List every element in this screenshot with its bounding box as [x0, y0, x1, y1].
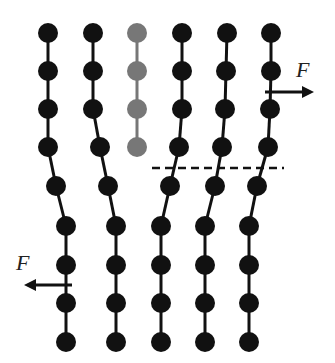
atom [56, 293, 76, 313]
atom [260, 99, 280, 119]
atom [56, 255, 76, 275]
force-arrow-right-head-icon [302, 86, 314, 98]
atom [38, 23, 58, 43]
atom [46, 176, 66, 196]
atom [215, 99, 235, 119]
atom [217, 23, 237, 43]
atom [38, 137, 58, 157]
atom [195, 216, 215, 236]
atom [90, 137, 110, 157]
atom [172, 23, 192, 43]
force-label-top: F [295, 57, 310, 82]
atom [239, 216, 259, 236]
atom [169, 137, 189, 157]
force-arrow-left-head-icon [24, 279, 36, 291]
atoms [38, 23, 281, 352]
atom [212, 137, 232, 157]
atom [106, 293, 126, 313]
atom [195, 332, 215, 352]
atom [261, 61, 281, 81]
atom [239, 332, 259, 352]
atom [83, 99, 103, 119]
atom [106, 255, 126, 275]
atom [160, 176, 180, 196]
atom [83, 61, 103, 81]
atom [151, 332, 171, 352]
atom [216, 61, 236, 81]
atom [195, 293, 215, 313]
atom [247, 176, 267, 196]
atom [239, 255, 259, 275]
atom [258, 137, 278, 157]
atom [38, 99, 58, 119]
atom [195, 255, 215, 275]
dislocation-diagram: F F [0, 0, 335, 363]
atom [151, 255, 171, 275]
atom [151, 216, 171, 236]
atom [151, 293, 171, 313]
atom [38, 61, 58, 81]
atom [239, 293, 259, 313]
force-label-bottom: F [15, 250, 30, 275]
atom [261, 23, 281, 43]
atom [172, 61, 192, 81]
atom [56, 216, 76, 236]
atom [127, 137, 147, 157]
atom [106, 332, 126, 352]
atom [172, 99, 192, 119]
atom [83, 23, 103, 43]
atom [205, 176, 225, 196]
atom [127, 23, 147, 43]
atom [127, 61, 147, 81]
atom [98, 176, 118, 196]
atom [106, 216, 126, 236]
atom [56, 332, 76, 352]
atom [127, 99, 147, 119]
